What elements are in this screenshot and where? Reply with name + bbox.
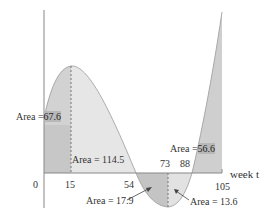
label-area-67-6-value: 67.6 <box>44 111 62 122</box>
label-area-56-6-prefix: Area = <box>170 143 198 154</box>
tick-label-73: 73 <box>160 159 170 169</box>
region-lower-band <box>44 125 71 173</box>
tick-label-15: 15 <box>65 180 75 190</box>
label-area-17-9: Area = 17.9 <box>86 196 134 206</box>
tick-label-54: 54 <box>124 180 134 190</box>
label-area-56-6: Area =56.6 <box>170 144 215 154</box>
tick-label-105: 105 <box>215 182 230 192</box>
tick-label-88: 88 <box>180 159 190 169</box>
label-area-114-5: Area = 114.5 <box>72 155 124 165</box>
label-area-67-6-prefix: Area = <box>16 111 44 122</box>
tick-label-0: 0 <box>33 180 38 190</box>
x-axis-label: week t <box>230 169 259 180</box>
region-54-73 <box>136 173 168 207</box>
label-area-67-6: Area =67.6 <box>16 112 61 122</box>
label-area-13-6: Area = 13.6 <box>190 197 238 207</box>
label-area-56-6-value: 56.6 <box>198 143 216 154</box>
region-73-88 <box>168 173 192 207</box>
